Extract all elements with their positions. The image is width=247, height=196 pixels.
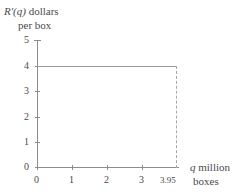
marginal-revenue-chart: R'(q) dollars per box 5 4 3 2 1 0 0 1 2 … [0,0,247,196]
x-axis-label-line2: boxes [193,176,219,187]
y-tick-3 [35,91,40,92]
x-tick-1 [72,165,73,170]
y-axis-line [37,40,38,168]
y-tick-1 [35,142,40,143]
y-tick-5 [34,40,41,41]
x-tick-label-end: 3.95 [160,176,176,185]
x-tick-3 [142,165,143,170]
x-tick-2 [107,165,108,170]
x-tick-0 [37,165,38,170]
y-axis-label-units: dollars [26,5,59,17]
x-axis-line [37,167,179,168]
y-axis-label-line1: R'(q) dollars [4,6,59,17]
x-tick-label-3: 3 [139,175,144,185]
x-tick-label-1: 1 [69,175,74,185]
y-tick-label-4: 4 [24,61,29,71]
y-tick-label-3: 3 [24,86,29,96]
y-tick-label-2: 2 [24,112,29,122]
y-axis-label-symbol: R'(q) [4,5,26,17]
x-axis-label-units: million [196,161,231,173]
x-tick-label-2: 2 [104,175,109,185]
drop-line-at-q-3-95 [176,66,177,168]
y-tick-label-0: 0 [24,162,29,172]
x-tick-label-0: 0 [34,175,39,185]
y-tick-label-1: 1 [24,137,29,147]
x-axis-label-line1: q million [190,162,230,173]
marginal-revenue-constant-line [37,66,177,67]
y-axis-label-line2: per box [18,20,51,31]
y-tick-2 [35,117,40,118]
y-tick-label-5: 5 [24,35,29,45]
